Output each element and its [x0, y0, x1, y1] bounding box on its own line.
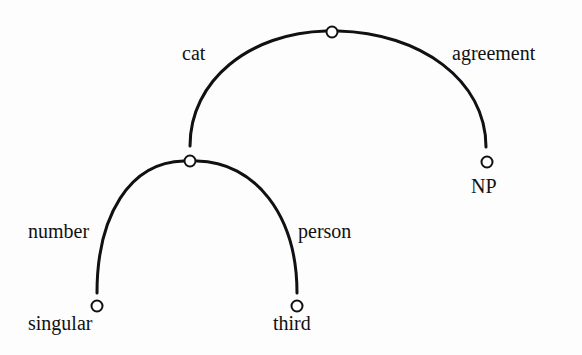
edge-label-cat: cat	[182, 42, 206, 64]
node-third	[292, 301, 303, 312]
node-label-third: third	[273, 312, 311, 334]
edge-label-number: number	[28, 220, 89, 242]
edge-cat	[190, 31, 326, 146]
node-root	[327, 27, 338, 38]
edge-label-person: person	[298, 220, 351, 243]
edge-label-agreement: agreement	[452, 42, 536, 65]
node-label-singular: singular	[28, 312, 93, 335]
edge-person	[197, 161, 297, 293]
node-cat-value	[185, 156, 196, 167]
edge-number	[97, 161, 184, 293]
node-singular	[92, 301, 103, 312]
feature-graph: cat agreement number person NP singular …	[0, 0, 582, 355]
node-np	[482, 157, 493, 168]
node-label-np: NP	[471, 175, 497, 197]
